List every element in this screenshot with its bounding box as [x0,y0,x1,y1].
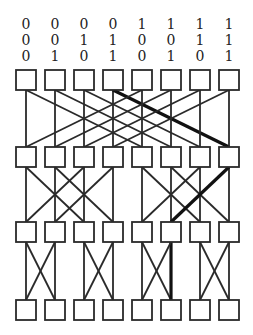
switch-node [74,300,94,320]
switch-node [161,300,181,320]
switch-node [103,147,123,167]
switch-node [132,70,152,90]
switch-node [103,222,123,242]
switch-node [45,70,65,90]
switch-node [132,300,152,320]
switch-node [161,147,181,167]
switch-node [219,300,239,320]
switch-node [190,300,210,320]
switch-node [16,147,36,167]
switch-node [103,70,123,90]
switch-node [132,147,152,167]
switch-node [74,147,94,167]
switch-node [45,222,65,242]
switch-node [16,300,36,320]
switch-node [219,147,239,167]
switch-node [219,222,239,242]
switch-node [132,222,152,242]
switch-node [161,222,181,242]
butterfly-network [0,0,253,335]
switch-node [74,70,94,90]
switch-node [16,222,36,242]
switch-node [103,300,123,320]
switch-node [45,300,65,320]
switch-node [74,222,94,242]
switch-node [161,70,181,90]
switch-node [219,70,239,90]
switch-node [190,70,210,90]
switch-node [190,147,210,167]
switch-node [16,70,36,90]
switch-node [190,222,210,242]
switch-node [45,147,65,167]
